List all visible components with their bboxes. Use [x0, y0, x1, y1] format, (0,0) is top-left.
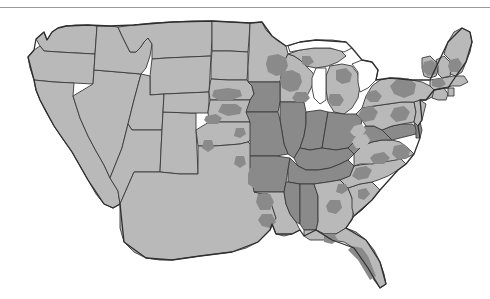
- map-figure: [0, 0, 490, 299]
- state-north-dakota[interactable]: [212, 21, 250, 52]
- state-florida[interactable]: [304, 228, 386, 288]
- state-colorado[interactable]: [163, 92, 209, 113]
- state-new-mexico[interactable]: [160, 112, 198, 174]
- state-south-dakota[interactable]: [211, 51, 248, 80]
- state-alabama[interactable]: [300, 184, 318, 230]
- state-rhode-island[interactable]: [448, 88, 454, 96]
- state-wyoming[interactable]: [150, 56, 211, 95]
- us-map-svg[interactable]: [0, 8, 490, 299]
- us-map-container[interactable]: [0, 8, 490, 299]
- lake-michigan: [312, 68, 326, 104]
- state-washington[interactable]: [36, 25, 97, 54]
